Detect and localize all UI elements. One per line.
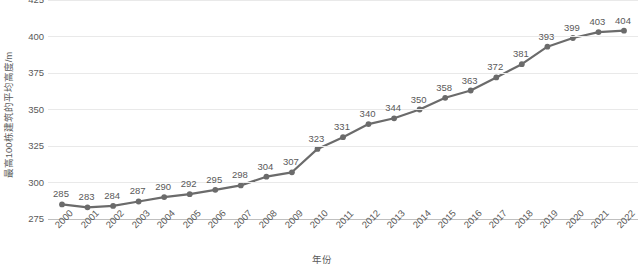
y-axis-tick-label: 300 — [18, 178, 44, 188]
data-point-marker — [289, 169, 295, 175]
y-axis-tick-label: 425 — [18, 0, 44, 5]
data-point-marker — [136, 199, 142, 205]
x-axis-title: 年份 — [0, 252, 643, 266]
data-point-label: 287 — [130, 186, 146, 196]
gridline — [48, 182, 638, 183]
y-axis-title: 最高100栋建筑的平均高度/m — [0, 0, 16, 230]
data-point-marker — [238, 183, 244, 189]
data-point-label: 358 — [436, 82, 452, 92]
plot-area: 2852832842872902922952983043073233313403… — [48, 0, 638, 219]
data-point-label: 350 — [411, 94, 427, 104]
data-point-marker — [187, 191, 193, 197]
x-axis-tick-labels: 2000200120022003200420052006200720082009… — [48, 219, 638, 253]
data-point-marker — [519, 61, 525, 67]
y-axis-title-text: 最高100栋建筑的平均高度/m — [1, 52, 15, 178]
data-point-label: 284 — [104, 190, 120, 200]
data-point-marker — [59, 202, 65, 208]
y-axis-tick-label: 325 — [18, 141, 44, 151]
y-axis-tick-label: 400 — [18, 32, 44, 42]
y-axis-tick-labels: 275300325350375400425 — [18, 0, 44, 273]
data-point-label: 304 — [257, 161, 273, 171]
y-axis-tick-label: 350 — [18, 105, 44, 115]
data-point-marker — [493, 75, 499, 81]
data-point-label: 403 — [590, 17, 606, 27]
data-point-marker — [391, 115, 397, 121]
gridline — [48, 0, 638, 1]
data-point-label: 381 — [513, 49, 529, 59]
data-point-marker — [621, 28, 627, 34]
data-point-label: 393 — [538, 31, 554, 41]
data-point-label: 307 — [283, 157, 299, 167]
data-point-label: 323 — [309, 133, 325, 143]
data-point-label: 404 — [615, 15, 631, 25]
data-point-label: 298 — [232, 170, 248, 180]
data-point-marker — [596, 29, 602, 35]
data-point-label: 292 — [181, 179, 197, 189]
data-point-label: 285 — [53, 189, 69, 199]
data-point-label: 363 — [462, 75, 478, 85]
y-axis-tick-label: 275 — [18, 214, 44, 224]
line-chart: 最高100栋建筑的平均高度/m 275300325350375400425 28… — [0, 0, 643, 273]
data-point-label: 399 — [564, 22, 580, 32]
data-point-label: 340 — [360, 109, 376, 119]
data-point-marker — [442, 95, 448, 101]
data-point-label: 344 — [385, 103, 401, 113]
data-point-marker — [315, 146, 321, 152]
data-point-label: 283 — [79, 192, 95, 202]
data-point-label: 290 — [155, 182, 171, 192]
data-point-label: 331 — [334, 122, 350, 132]
gridline — [48, 109, 638, 110]
gridline — [48, 73, 638, 74]
data-point-marker — [110, 203, 116, 209]
data-point-marker — [340, 134, 346, 140]
data-point-marker — [264, 174, 270, 180]
data-point-marker — [545, 44, 551, 50]
data-point-marker — [212, 187, 218, 193]
y-axis-tick-label: 375 — [18, 68, 44, 78]
series-polyline — [62, 31, 624, 208]
gridline — [48, 146, 638, 147]
data-point-marker — [161, 194, 167, 200]
data-point-marker — [468, 88, 474, 94]
data-point-label: 295 — [206, 174, 222, 184]
data-point-label: 372 — [487, 62, 503, 72]
data-point-marker — [366, 121, 372, 127]
